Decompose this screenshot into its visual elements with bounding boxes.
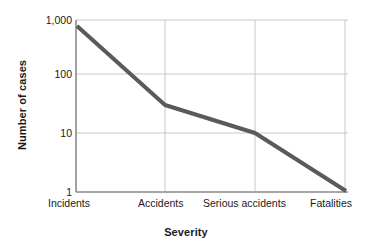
plot-svg xyxy=(76,20,348,192)
x-tick-label-accidents: Accidents xyxy=(138,196,184,210)
horizontal-gridlines xyxy=(76,20,348,133)
chart-figure: Number of cases 1,000 100 10 1 xyxy=(0,0,372,252)
vertical-gridlines xyxy=(165,20,345,192)
data-series-line xyxy=(77,26,346,191)
y-tick-label-1000: 1,000 xyxy=(32,15,72,25)
y-tick-label-100: 100 xyxy=(32,69,72,79)
y-tick-label-10: 10 xyxy=(32,128,72,138)
x-tick-label-fatalities: Fatalities xyxy=(310,196,352,210)
x-tick-label-serious-accidents: Serious accidents xyxy=(203,196,286,210)
x-axis-title: Severity xyxy=(0,226,372,238)
plot-area xyxy=(76,20,348,192)
x-tick-label-incidents: Incidents xyxy=(48,196,90,210)
y-axis-tick-labels: 1,000 100 10 1 xyxy=(28,0,72,252)
x-axis-tick-labels: Incidents Accidents Serious accidents Fa… xyxy=(0,196,372,212)
